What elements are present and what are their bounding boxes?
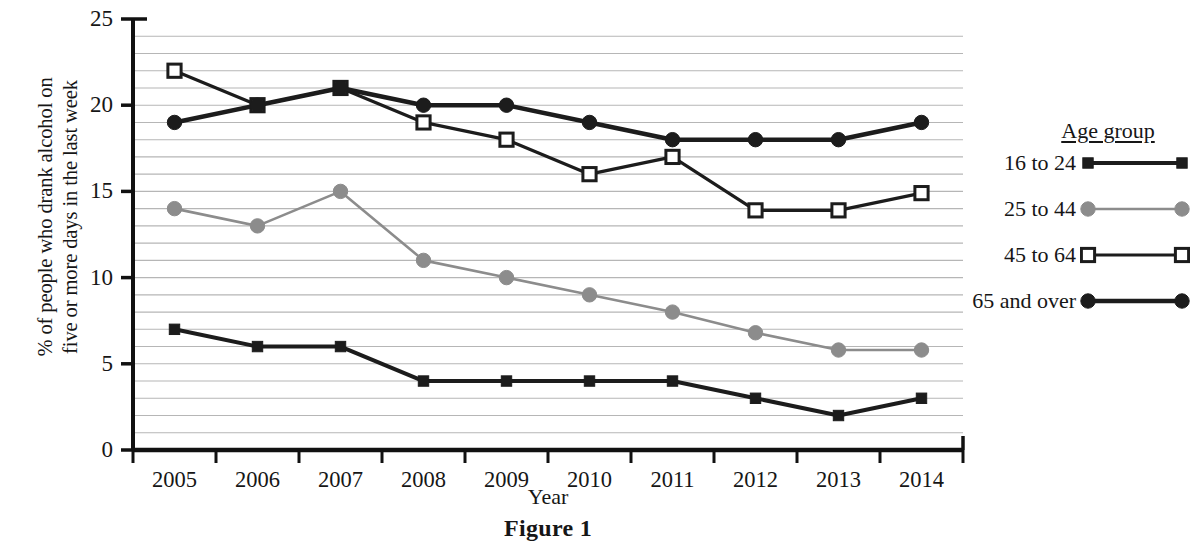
- legend-item-25-to-44[interactable]: 25 to 44: [975, 196, 1200, 224]
- legend-item-45-to-64[interactable]: 45 to 64: [975, 242, 1200, 270]
- legend-swatch-open-square-icon: [1080, 242, 1190, 268]
- legend-item-label: 65 and over: [972, 288, 1076, 314]
- legend-item-label: 16 to 24: [1004, 150, 1076, 176]
- x-axis-title: Year: [133, 484, 963, 510]
- legend-item-label: 25 to 44: [1004, 196, 1076, 222]
- axis-spines: [121, 19, 963, 463]
- legend-item-label: 45 to 64: [1004, 242, 1076, 268]
- figure-caption: Figure 1: [133, 515, 963, 542]
- legend-item-16-to-24[interactable]: 16 to 24: [975, 150, 1200, 178]
- series-16-to-24: [169, 324, 926, 421]
- gridlines: [133, 36, 963, 433]
- y-tick-label: 10: [59, 266, 113, 289]
- y-tick-label: 0: [59, 438, 113, 461]
- legend-swatch-filled-circle-icon: [1080, 288, 1190, 314]
- series-65-and-over: [167, 81, 928, 147]
- legend-swatch-filled-square-icon: [1080, 150, 1190, 176]
- legend-swatch-filled-circle-icon: [1080, 196, 1190, 222]
- y-tick-label: 5: [59, 352, 113, 375]
- y-tick-label: 20: [59, 93, 113, 116]
- y-tick-label: 15: [59, 179, 113, 202]
- legend-item-65-and-over[interactable]: 65 and over: [975, 288, 1200, 316]
- legend-title: Age group: [1023, 118, 1193, 144]
- y-tick-label: 25: [59, 7, 113, 30]
